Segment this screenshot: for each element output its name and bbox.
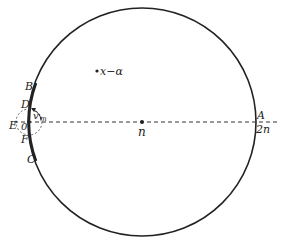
label-center-n: n <box>138 125 146 139</box>
label-b: B <box>24 80 33 93</box>
point-center <box>140 120 144 124</box>
circle-diagram: B D E 0 F C v m n x−α A 2n <box>0 0 281 245</box>
label-2n: 2n <box>255 123 270 136</box>
label-v-sub: m <box>40 115 47 123</box>
label-d: D <box>20 98 30 111</box>
label-e: E <box>8 119 17 132</box>
label-o: 0 <box>21 121 28 132</box>
label-f: F <box>20 133 29 146</box>
label-v: v <box>33 110 39 121</box>
point-x-alpha <box>95 69 98 72</box>
point-o <box>27 120 31 124</box>
label-x-alpha: x−α <box>100 65 123 78</box>
label-c: C <box>27 153 36 166</box>
label-a: A <box>256 109 265 122</box>
